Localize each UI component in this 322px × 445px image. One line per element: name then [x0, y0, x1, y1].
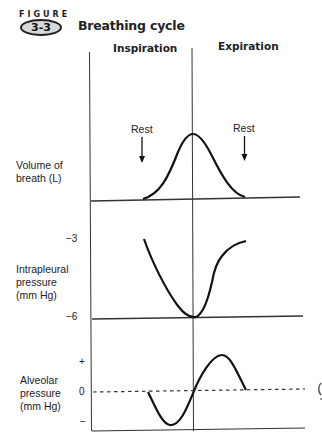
volume-baseline: [91, 197, 300, 201]
left-axis-line: [90, 52, 92, 431]
alveolar-pressure-curve: [148, 355, 246, 425]
phase-divider-line: [192, 48, 194, 431]
breathing-cycle-diagram: [0, 0, 322, 445]
intrapleural-pressure-curve: [144, 239, 246, 317]
volume-curve: [143, 134, 245, 199]
alveolar-bottom-line: [92, 428, 305, 431]
arrow-down-icon: [242, 136, 248, 161]
alveolar-zero-line: [93, 389, 305, 392]
cropped-edge-glyph: [319, 383, 321, 395]
arrow-down-icon: [139, 137, 145, 163]
